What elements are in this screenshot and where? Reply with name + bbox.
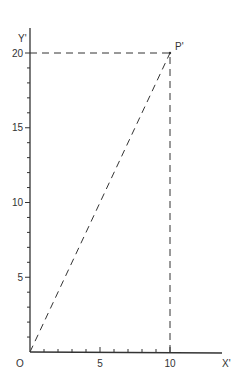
line-op-prime	[30, 53, 170, 352]
x-tick-label: 5	[97, 358, 103, 369]
y-tick-label: 10	[12, 197, 24, 208]
marks	[30, 52, 171, 352]
point-p-prime	[169, 52, 171, 54]
axes	[25, 28, 222, 353]
x-axis-label: X'	[222, 358, 231, 369]
point-label: P'	[175, 41, 184, 52]
origin-label: O	[16, 358, 24, 369]
y-tick-label: 15	[12, 122, 24, 133]
labels: Y' X' O 5101520510P'	[12, 33, 231, 369]
x-axis-line	[30, 352, 222, 353]
y-tick-label: 20	[12, 48, 24, 59]
y-tick-label: 5	[17, 272, 23, 283]
y-axis-label: Y'	[18, 33, 27, 44]
x-tick-label: 10	[164, 358, 176, 369]
chart: Y' X' O 5101520510P'	[0, 0, 240, 387]
